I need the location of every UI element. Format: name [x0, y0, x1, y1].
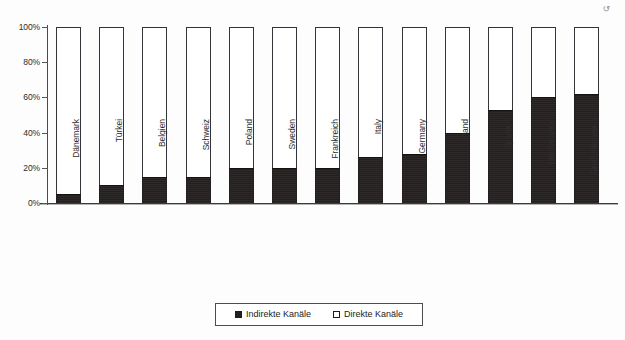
x-axis-category-label: Germany — [418, 119, 427, 209]
y-axis-tick-mark — [42, 168, 48, 169]
x-axis-category-label: Schweiz — [202, 119, 211, 209]
y-axis-tick-labels: 0%20%40%60%80%100% — [0, 0, 40, 340]
x-axis-category-label: Spanien — [504, 119, 513, 209]
legend-label: Direkte Kanäle — [344, 310, 403, 319]
y-axis-tick-mark — [42, 133, 48, 134]
y-axis-tick-label: 40% — [4, 129, 40, 138]
x-axis-line — [40, 203, 618, 204]
y-axis-tick-label: 100% — [4, 23, 40, 32]
x-axis-category-label: Italy — [374, 119, 383, 209]
x-axis-category-label: Sweden — [288, 119, 297, 209]
filled-square-icon — [235, 311, 242, 318]
legend-entry-indirekte-kanaele: Indirekte Kanäle — [235, 310, 311, 319]
x-axis-category-label: Irland — [461, 119, 470, 209]
x-axis-category-label: Poland — [245, 119, 254, 209]
y-axis-tick-mark — [42, 97, 48, 98]
y-axis-tick-label: 0% — [4, 199, 40, 208]
x-axis-category-label: Großbritannien — [590, 119, 599, 209]
x-axis-category-label: Dänemark — [72, 119, 81, 209]
legend-label: Indirekte Kanäle — [246, 310, 311, 319]
y-axis-tick-mark — [42, 27, 48, 28]
y-axis-tick-label: 20% — [4, 164, 40, 173]
y-axis-tick-label: 60% — [4, 93, 40, 102]
y-axis-tick-label: 80% — [4, 58, 40, 67]
y-axis-tick-mark — [42, 203, 48, 204]
open-square-icon — [333, 311, 340, 318]
x-axis-category-label: Türkei — [115, 119, 124, 209]
x-axis-category-label: Frankreich — [331, 119, 340, 209]
x-axis-category-label: Belgien — [158, 119, 167, 209]
scan-artifact-mark: ↺ — [602, 3, 612, 14]
stacked-bar-chart: 0%20%40%60%80%100% DänemarkTürkeiBelgien… — [0, 0, 625, 340]
x-axis-category-label: Niederlande — [547, 119, 556, 209]
legend-entry-direkte-kanaele: Direkte Kanäle — [333, 310, 403, 319]
chart-legend: Indirekte Kanäle Direkte Kanäle — [215, 303, 423, 326]
y-axis-tick-mark — [42, 62, 48, 63]
